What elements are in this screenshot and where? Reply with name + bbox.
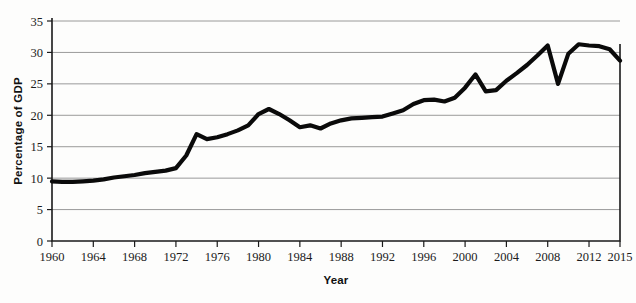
y-tick-label: 10 bbox=[31, 172, 44, 186]
x-tick-label: 2004 bbox=[494, 250, 520, 264]
x-axis-title: Year bbox=[323, 274, 348, 286]
x-tick-label: 2015 bbox=[608, 250, 633, 264]
x-tick-label: 1992 bbox=[370, 250, 395, 264]
x-tick-label: 1960 bbox=[40, 250, 65, 264]
y-tick-label: 20 bbox=[31, 109, 44, 123]
x-tick-label: 2012 bbox=[577, 250, 602, 264]
x-tick-label: 1976 bbox=[205, 250, 230, 264]
x-tick-label: 1972 bbox=[163, 250, 188, 264]
y-tick-label: 15 bbox=[31, 140, 44, 154]
x-tick-label: 2000 bbox=[453, 250, 478, 264]
y-axis-title: Percentage of GDP bbox=[12, 77, 24, 185]
y-tick-label: 35 bbox=[31, 15, 44, 29]
y-tick-label: 25 bbox=[31, 77, 44, 91]
x-tick-label: 1968 bbox=[122, 250, 147, 264]
x-tick-label: 1980 bbox=[246, 250, 271, 264]
data-series-line bbox=[52, 44, 620, 182]
x-tick-label: 1984 bbox=[287, 250, 313, 264]
chart-page: 0510152025303519601964196819721976198019… bbox=[0, 0, 636, 303]
line-chart: 0510152025303519601964196819721976198019… bbox=[0, 0, 636, 303]
y-tick-label: 0 bbox=[37, 235, 43, 249]
x-tick-label: 1996 bbox=[411, 250, 436, 264]
axis-frame bbox=[52, 18, 620, 241]
x-tick-label: 2008 bbox=[535, 250, 560, 264]
x-tick-label: 1964 bbox=[81, 250, 107, 264]
x-tick-label: 1988 bbox=[329, 250, 354, 264]
y-tick-label: 30 bbox=[31, 46, 44, 60]
y-tick-label: 5 bbox=[37, 203, 43, 217]
